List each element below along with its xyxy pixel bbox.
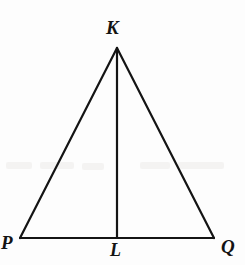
triangle-drawing (0, 0, 245, 265)
segment-kq (117, 48, 214, 238)
vertex-label-q: Q (221, 237, 235, 256)
vertex-label-k: K (106, 18, 119, 37)
vertex-label-p: P (1, 233, 13, 252)
vertex-label-l: L (110, 241, 121, 259)
segment-kp (20, 48, 117, 238)
geometry-figure: K P Q L (0, 0, 245, 265)
